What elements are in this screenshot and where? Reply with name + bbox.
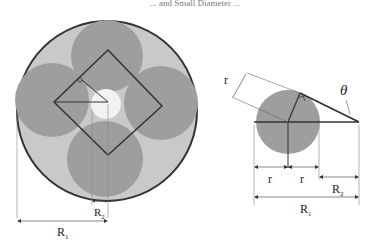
arrow-head xyxy=(284,165,288,169)
extension-line xyxy=(247,73,300,93)
circle-bottom xyxy=(67,121,143,197)
R1-label: R1 xyxy=(300,202,312,218)
left-figure: R2 R1 xyxy=(15,20,198,241)
arrow-head xyxy=(319,175,323,179)
r-diagonal-dimension xyxy=(233,74,246,97)
diagram-canvas: ... and Small Diameter ... R2 R1 xyxy=(0,0,370,248)
arrow-head xyxy=(355,175,359,179)
R1-label: R1 xyxy=(57,225,69,241)
arrow-head xyxy=(315,165,319,169)
right-figure: r θ r r R2 R1 xyxy=(224,73,359,218)
r-left-label: r xyxy=(268,172,272,186)
theta-label: θ xyxy=(340,82,348,98)
arrow-head xyxy=(254,165,258,169)
R2-label: R2 xyxy=(94,206,105,221)
center-hole xyxy=(91,89,121,119)
theta-pointer xyxy=(346,100,350,114)
arrow-head xyxy=(17,219,21,223)
r-right-label: r xyxy=(300,172,304,186)
arrow-head xyxy=(254,195,258,199)
arrow-head xyxy=(288,165,292,169)
header-fragment: ... and Small Diameter ... xyxy=(150,0,240,8)
arrow-head xyxy=(355,195,359,199)
R2-label: R2 xyxy=(332,182,344,198)
r-diagonal-label: r xyxy=(224,73,228,87)
